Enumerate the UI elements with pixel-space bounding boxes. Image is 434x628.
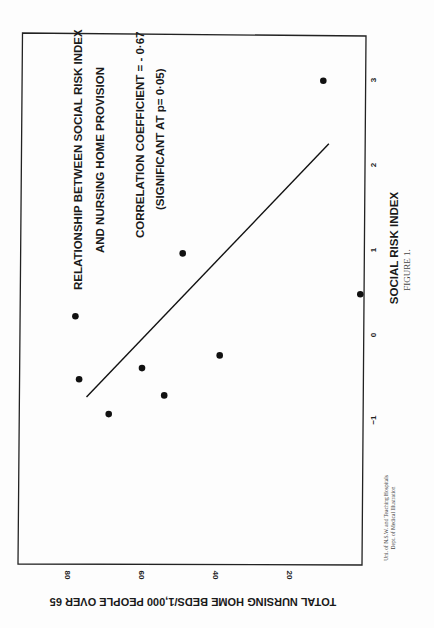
data-point — [357, 291, 364, 298]
data-point — [139, 365, 146, 372]
credit-line-1: Uni. of N.S.W. and Teaching Hospitals — [383, 475, 389, 561]
data-point — [76, 376, 83, 383]
chart-title: RELATIONSHIP BETWEEN SOCIAL RISK INDEX A… — [72, 29, 166, 290]
data-point — [320, 78, 327, 85]
data-point — [72, 313, 79, 320]
y-tick-label: 80 — [63, 571, 72, 580]
y-tick-label: 40 — [211, 571, 220, 580]
x-tick-label: 0 — [369, 332, 378, 337]
data-point — [179, 250, 186, 257]
title-line-1: RELATIONSHIP BETWEEN SOCIAL RISK INDEX — [72, 29, 84, 290]
data-point — [105, 411, 112, 418]
scatter-plot: RELATIONSHIP BETWEEN SOCIAL RISK INDEX A… — [0, 0, 434, 628]
data-point — [216, 352, 223, 359]
credit-line-2: Dept. of Medical Illustration — [390, 486, 396, 549]
y-tick-label: 60 — [137, 571, 146, 580]
y-axis-title: TOTAL NURSING HOME BEDS/1,000 PEOPLE OVE… — [50, 596, 337, 608]
y-tick-label: 20 — [285, 571, 294, 580]
regression-line — [87, 144, 329, 397]
figure-label: FIGURE 1. — [402, 249, 412, 291]
x-tick-label: −1 — [369, 415, 378, 425]
significance-label: (SIGNIFICANT AT p= 0·05) — [154, 68, 166, 210]
x-axis-ticks: −10123 — [369, 77, 378, 424]
x-tick-label: 2 — [369, 162, 378, 167]
x-tick-label: 1 — [369, 247, 378, 252]
correlation-label: CORRELATION COEFFICIENT = - 0·67 — [134, 32, 146, 238]
x-axis-title: SOCIAL RISK INDEX — [388, 192, 400, 305]
plot-frame — [18, 33, 366, 565]
data-point — [161, 392, 168, 399]
x-tick-label: 3 — [369, 77, 378, 82]
y-axis-ticks: 20406080 — [63, 571, 294, 580]
chart-figure: RELATIONSHIP BETWEEN SOCIAL RISK INDEX A… — [0, 0, 434, 628]
title-line-2: AND NURSING HOME PROVISION — [94, 67, 106, 253]
